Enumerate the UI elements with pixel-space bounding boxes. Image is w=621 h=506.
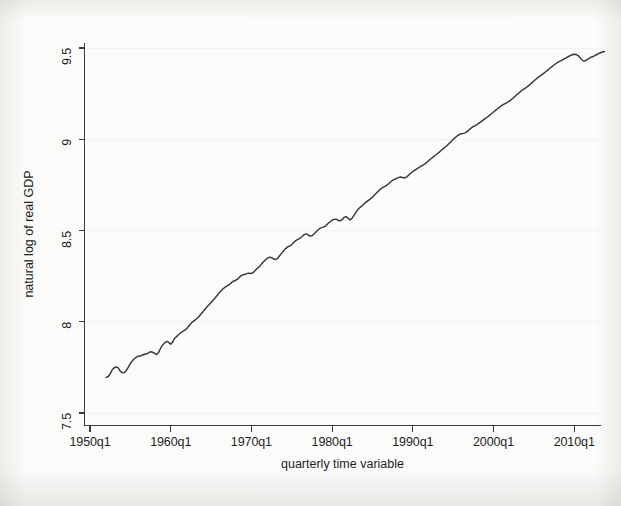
- y-tick-label-8: 8: [60, 314, 74, 390]
- plot-canvas: [0, 0, 621, 506]
- x-tick-label-1990q1: 1990q1: [373, 435, 453, 449]
- x-tick-label-1980q1: 1980q1: [292, 435, 372, 449]
- x-axis-title: quarterly time variable: [85, 457, 601, 471]
- y-axis-title: natural log of real GDP: [22, 43, 36, 426]
- y-tick-label-9: 9: [60, 131, 74, 207]
- x-tick-label-2000q1: 2000q1: [454, 435, 534, 449]
- x-tick-label-1960q1: 1960q1: [131, 435, 211, 449]
- gridlines-group: [86, 48, 601, 413]
- tick-marks-group: [79, 48, 575, 432]
- axis-frame: [85, 43, 601, 426]
- x-tick-label-2010q1: 2010q1: [534, 435, 614, 449]
- y-tick-label-9.5: 9.5: [60, 40, 74, 116]
- gdp-line-chart-figure: 7.588.599.5 1950q11960q11970q11980q11990…: [0, 0, 621, 506]
- y-tick-label-8.5: 8.5: [60, 223, 74, 299]
- x-tick-label-1950q1: 1950q1: [50, 435, 130, 449]
- gdp-series-line: [106, 51, 604, 377]
- x-tick-label-1970q1: 1970q1: [211, 435, 291, 449]
